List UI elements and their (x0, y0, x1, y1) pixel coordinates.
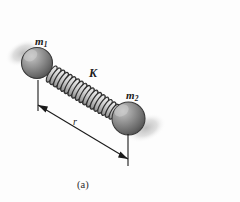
mass-label-m1-subscript: 1 (44, 40, 48, 49)
mass-label-m2-subscript: 2 (135, 94, 139, 103)
mass-label-m1: m1 (35, 36, 48, 49)
figure-canvas (0, 0, 240, 202)
mass-sphere-m2 (112, 102, 145, 135)
mass-label-m2: m2 (126, 90, 139, 103)
separation-label: r (73, 117, 77, 127)
physics-figure-two-mass-spring: m1 m2 K r (a) (0, 0, 240, 202)
arrowhead-right (118, 151, 128, 159)
coil-spring (44, 64, 122, 122)
mass-label-m1-symbol: m (35, 35, 44, 47)
mass-sphere-m1 (22, 47, 53, 78)
figure-caption: (a) (77, 180, 89, 191)
arrowhead-left (38, 105, 48, 113)
spring-constant-label: K (89, 67, 97, 79)
mass-label-m2-symbol: m (126, 89, 135, 101)
